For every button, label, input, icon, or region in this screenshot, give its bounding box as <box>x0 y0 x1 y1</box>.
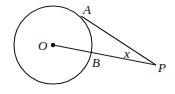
diagram-canvas: O A B P x <box>0 0 175 94</box>
label-b: B <box>92 55 100 70</box>
center-point-o <box>51 43 55 47</box>
angle-label-x: x <box>123 46 130 61</box>
label-o: O <box>38 38 48 53</box>
label-a: A <box>82 2 91 17</box>
tangent-circle-diagram: O A B P x <box>0 0 175 94</box>
label-p: P <box>157 60 166 75</box>
